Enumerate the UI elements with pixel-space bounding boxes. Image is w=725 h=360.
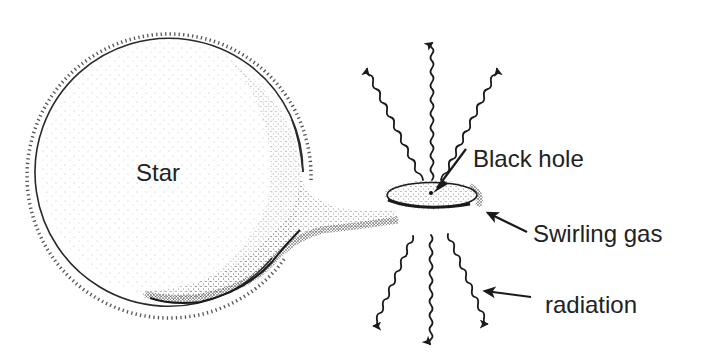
radiation-arrow-up-left xyxy=(367,69,423,180)
swirling-gas-pointer xyxy=(488,213,527,232)
radiation-arrow-down-right xyxy=(448,234,487,324)
accretion-disk xyxy=(384,180,480,210)
radiation-arrow-down-left xyxy=(374,236,413,326)
radiation-pointer xyxy=(485,291,531,297)
radiation-arrow-up-middle xyxy=(431,43,434,180)
black-hole-point xyxy=(429,191,433,195)
black-hole-label: Black hole xyxy=(473,145,584,172)
swirling-gas-label: Swirling gas xyxy=(533,220,662,247)
radiation-arrow-down-middle xyxy=(429,235,432,344)
radiation-label: radiation xyxy=(545,291,637,318)
black-hole-diagram: Star Black hole Swirling gas radiation xyxy=(0,0,725,360)
star-label: Star xyxy=(136,159,180,186)
